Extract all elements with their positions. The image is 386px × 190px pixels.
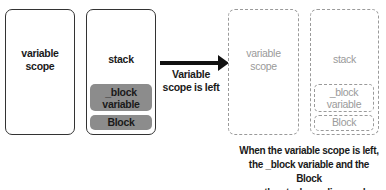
block-variable-line1: _block <box>90 86 152 98</box>
disposed-block-variable-item: _block variable <box>314 84 374 112</box>
disposed-block-item: Block <box>314 115 374 131</box>
block-item: Block <box>90 115 152 130</box>
block-item-label: Block <box>107 116 134 128</box>
caption-line1: When the variable scope is left, <box>236 144 382 158</box>
variable-scope-label-line2: scope <box>6 60 74 73</box>
transition-label-line2: scope is left <box>156 81 226 94</box>
disposed-block-item-label: Block <box>332 116 356 128</box>
transition-label-line1: Variable <box>156 68 226 81</box>
caption-line3: on the stack are disposed. <box>236 186 382 190</box>
variable-scope-label-line1: variable <box>6 47 74 60</box>
disposed-variable-scope-label: variable scope <box>229 47 298 73</box>
disposed-stack-box: stack _block variable Block <box>310 9 379 135</box>
stack-box: stack _block variable Block <box>86 9 156 135</box>
caption: When the variable scope is left, the _bl… <box>236 144 382 190</box>
disposed-variable-scope-box: variable scope <box>228 9 299 135</box>
variable-scope-box: variable scope <box>5 9 75 135</box>
caption-line2: the _block variable and the Block <box>236 158 382 186</box>
disposed-variable-scope-line1: variable <box>229 47 298 60</box>
disposed-variable-scope-line2: scope <box>229 60 298 73</box>
transition-label: Variable scope is left <box>156 68 226 94</box>
variable-scope-label: variable scope <box>6 47 74 73</box>
block-variable-item: _block variable <box>90 84 152 111</box>
disposed-stack-label: stack <box>311 53 378 66</box>
disposed-block-variable-line2: variable <box>315 98 373 110</box>
stack-label: stack <box>87 53 155 66</box>
disposed-block-variable-line1: _block <box>315 86 373 98</box>
block-variable-line2: variable <box>90 98 152 110</box>
arrow-shaft <box>160 61 222 65</box>
